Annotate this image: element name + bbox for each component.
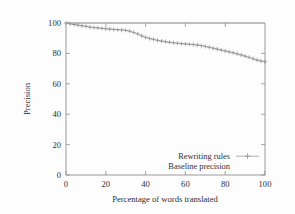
x-axis-ticks (66, 23, 265, 175)
data-point-marker (183, 42, 187, 46)
plot-frame (66, 23, 265, 175)
x-tick-label-0: 0 (64, 179, 68, 189)
chart-legend: Rewriting rules Baseline precision (168, 152, 259, 171)
data-series-layer (64, 21, 267, 64)
y-axis-ticks (66, 23, 265, 175)
data-point-marker (88, 25, 92, 29)
y-tick-label-80: 80 (52, 48, 61, 58)
x-axis-title: Percentage of words translated (112, 194, 218, 204)
data-point-marker (171, 41, 175, 45)
y-tick-label-100: 100 (48, 18, 61, 28)
data-point-marker (207, 45, 211, 49)
series-1 (64, 21, 267, 64)
x-tick-label-100: 100 (259, 179, 272, 189)
data-point-marker (140, 34, 144, 38)
data-point-marker (179, 42, 183, 46)
data-point-marker (108, 27, 112, 31)
data-point-marker (191, 42, 195, 46)
y-axis-title: Precision (22, 82, 32, 115)
x-tick-label-20: 20 (102, 179, 111, 189)
data-point-marker (235, 52, 239, 56)
data-point-marker (199, 44, 203, 48)
data-point-marker (124, 28, 128, 32)
data-point-marker (128, 29, 132, 33)
data-point-marker (223, 49, 227, 53)
data-point-marker (163, 40, 167, 44)
data-point-marker (68, 22, 72, 26)
x-tick-label-80: 80 (221, 179, 230, 189)
data-point-marker (231, 51, 235, 55)
data-point-marker (92, 25, 96, 29)
data-point-marker (144, 35, 148, 39)
data-point-marker (120, 28, 124, 32)
legend-sample-marker-plus (245, 153, 251, 159)
y-tick-labels: 0 20 40 60 80 100 (48, 18, 61, 180)
chart-figure: 0 20 40 60 80 100 0 20 40 60 80 100 Perc… (0, 0, 295, 214)
data-point-marker (187, 42, 191, 46)
data-point-marker (159, 39, 163, 43)
legend-label-baseline-precision: Baseline precision (168, 162, 230, 171)
data-point-marker (136, 32, 140, 36)
data-point-marker (112, 27, 116, 31)
axis-frame-path (66, 23, 265, 175)
data-point-marker (219, 48, 223, 52)
data-point-marker (175, 41, 179, 45)
data-point-marker (100, 26, 104, 30)
data-point-marker (247, 55, 251, 59)
x-tick-label-60: 60 (181, 179, 190, 189)
data-point-marker (215, 47, 219, 51)
data-point-marker (211, 46, 215, 50)
data-point-marker (84, 24, 88, 28)
legend-label-rewriting-rules: Rewriting rules (178, 152, 230, 161)
data-point-marker (104, 27, 108, 31)
precision-line-chart: 0 20 40 60 80 100 0 20 40 60 80 100 Perc… (0, 0, 295, 214)
data-point-marker (195, 43, 199, 47)
y-tick-label-20: 20 (52, 140, 61, 150)
y-tick-label-40: 40 (52, 109, 61, 119)
data-point-marker (167, 40, 171, 44)
x-tick-labels: 0 20 40 60 80 100 (64, 179, 272, 189)
data-point-marker (259, 59, 263, 63)
data-point-marker (203, 44, 207, 48)
data-point-marker (227, 50, 231, 54)
x-tick-label-40: 40 (141, 179, 150, 189)
y-tick-label-60: 60 (52, 79, 61, 89)
data-point-marker (147, 36, 151, 40)
data-point-marker (132, 30, 136, 34)
data-point-marker (96, 26, 100, 30)
data-point-marker (155, 38, 159, 42)
y-tick-label-0: 0 (57, 170, 61, 180)
data-point-marker (255, 58, 259, 62)
data-point-marker (243, 54, 247, 58)
data-point-marker (116, 28, 120, 32)
data-point-marker (239, 53, 243, 57)
data-point-marker (251, 57, 255, 61)
data-point-marker (80, 24, 84, 28)
data-point-marker (263, 60, 267, 64)
data-point-marker (76, 23, 80, 27)
data-point-marker (151, 37, 155, 41)
